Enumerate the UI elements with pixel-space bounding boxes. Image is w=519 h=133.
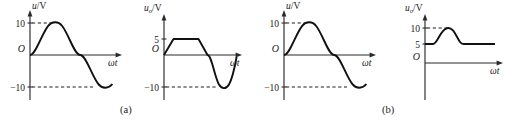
origin-label: O (152, 43, 159, 54)
origin-label: O (272, 43, 279, 54)
ytick-label-pos-ten: 10 (16, 19, 26, 29)
waveform-curve (164, 39, 237, 88)
x-axis-arrow (497, 61, 503, 66)
ytick-label-pos-ten: 10 (270, 19, 280, 29)
x-axis-label: ωt (230, 58, 240, 68)
ytick-label-neg-ten: −10 (10, 83, 25, 93)
x-axis-arrow (236, 53, 242, 58)
ytick-label-five: 5 (415, 40, 420, 50)
y-axis-label: uo/V (405, 3, 423, 14)
x-axis-label: ωt (362, 58, 372, 68)
x-axis-label: ωt (108, 58, 118, 68)
caption-b: (b) (382, 104, 394, 115)
x-axis-arrow (116, 53, 122, 58)
waveform-figure-row: u/V 10 −10 O ωt uo/V 5 −10 O ωt (0, 0, 519, 133)
x-axis-label: ωt (490, 66, 500, 76)
y-axis-arrow (162, 14, 167, 20)
ytick-label-pos-ten: 10 (411, 24, 421, 34)
y-axis-label: uo/V (144, 3, 162, 14)
y-axis-label: u/V (32, 1, 46, 11)
waveform-curve (425, 28, 495, 44)
chart-output-waveform-a: uo/V 5 −10 O ωt (138, 0, 250, 106)
y-axis-label: u/V (286, 1, 300, 11)
caption-a: (a) (120, 104, 132, 115)
origin-label: O (413, 51, 420, 62)
chart-output-waveform-b: uo/V 10 5 O ωt (400, 0, 512, 106)
origin-label: O (18, 43, 25, 54)
chart-input-waveform-b: u/V 10 −10 O ωt (262, 0, 382, 106)
y-axis-arrow (423, 14, 428, 20)
ytick-label-neg-ten: −10 (144, 83, 159, 93)
x-axis-arrow (370, 53, 376, 58)
chart-input-waveform-a: u/V 10 −10 O ωt (8, 0, 128, 106)
ytick-label-neg-ten: −10 (264, 83, 279, 93)
